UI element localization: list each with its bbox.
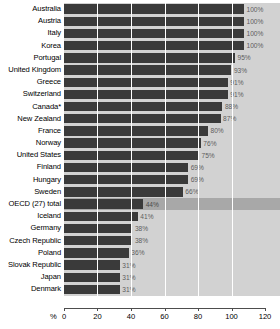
chart-row: Greece91%	[0, 76, 280, 88]
horizontal-bar-chart: Australia100%Austria100%Italy100%Korea10…	[0, 0, 280, 329]
bar	[64, 224, 132, 233]
category-label: Japan	[0, 271, 64, 283]
x-axis-tick	[97, 308, 98, 311]
bar-value-label: 100%	[244, 15, 263, 27]
bar-value-label: 69%	[188, 161, 204, 173]
bar-value-label: 69%	[188, 174, 204, 186]
bar-track: 66%	[64, 186, 280, 198]
bar-value-label: 31%	[120, 271, 136, 283]
chart-row: Sweden66%	[0, 186, 280, 198]
category-label: Canada*	[0, 101, 64, 113]
category-label: France	[0, 125, 64, 137]
bar	[64, 53, 235, 62]
bar-track: 38%	[64, 235, 280, 247]
bar-value-label: 41%	[138, 210, 154, 222]
bar	[64, 17, 244, 26]
bar-track: 100%	[64, 15, 280, 27]
bar	[64, 212, 138, 221]
chart-row: Korea100%	[0, 40, 280, 52]
bar-track: 93%	[64, 64, 280, 76]
bar	[64, 138, 201, 147]
chart-row: Denmark31%	[0, 283, 280, 295]
category-label: United Kingdom	[0, 64, 64, 76]
chart-row: United States75%	[0, 149, 280, 161]
chart-row: OECD (27) total44%	[0, 198, 280, 210]
bar-track: 31%	[64, 283, 280, 295]
chart-row: Hungary69%	[0, 174, 280, 186]
bar-value-label: 100%	[244, 27, 263, 39]
bar-value-label: 87%	[221, 113, 237, 125]
bar	[64, 260, 120, 269]
category-label: Australia	[0, 3, 64, 15]
chart-rows: Australia100%Austria100%Italy100%Korea10…	[0, 3, 280, 296]
bar-value-label: 38%	[132, 235, 148, 247]
bar-value-label: 100%	[244, 3, 263, 15]
bar	[64, 126, 208, 135]
chart-row: Australia100%	[0, 3, 280, 15]
chart-row: Germany38%	[0, 222, 280, 234]
x-axis-tick	[265, 308, 266, 311]
chart-row: Norway76%	[0, 137, 280, 149]
chart-row: Finland69%	[0, 161, 280, 173]
chart-row: France80%	[0, 125, 280, 137]
bar-track: 31%	[64, 271, 280, 283]
category-label: United States	[0, 149, 64, 161]
chart-row: Poland36%	[0, 247, 280, 259]
x-axis-tick	[232, 308, 233, 311]
bar-track: 87%	[64, 113, 280, 125]
bar-value-label: 38%	[132, 222, 148, 234]
bar-track: 69%	[64, 161, 280, 173]
category-label: Poland	[0, 247, 64, 259]
x-axis-tick-label: 100	[225, 312, 238, 321]
bar	[64, 41, 244, 50]
bar-track: 91%	[64, 88, 280, 100]
chart-row: New Zealand87%	[0, 113, 280, 125]
category-label: Denmark	[0, 283, 64, 295]
bar-value-label: 31%	[120, 283, 136, 295]
category-label: Germany	[0, 222, 64, 234]
bar-track: 100%	[64, 27, 280, 39]
x-axis-unit-label: %	[50, 312, 57, 321]
chart-row: Czech Republic38%	[0, 235, 280, 247]
category-label: Czech Republic	[0, 235, 64, 247]
bar	[64, 163, 188, 172]
x-axis-tick-label: 40	[127, 312, 135, 321]
x-axis-tick	[198, 308, 199, 311]
bar	[64, 285, 120, 294]
chart-row: Italy100%	[0, 27, 280, 39]
x-axis: 020406080100120	[64, 308, 265, 309]
bar-track: 100%	[64, 3, 280, 15]
x-axis-tick-label: 120	[259, 312, 272, 321]
category-label: Hungary	[0, 174, 64, 186]
bar-value-label: 66%	[183, 186, 199, 198]
bar	[64, 199, 143, 208]
bar	[64, 248, 129, 257]
category-label: Austria	[0, 15, 64, 27]
category-label: Portugal	[0, 52, 64, 64]
bar-track: 91%	[64, 76, 280, 88]
bar	[64, 236, 132, 245]
bar-value-label: 91%	[228, 76, 244, 88]
bar-value-label: 44%	[143, 198, 159, 210]
category-label: Greece	[0, 76, 64, 88]
bar-track: 80%	[64, 125, 280, 137]
x-axis-tick-label: 60	[160, 312, 168, 321]
bar-track: 75%	[64, 149, 280, 161]
bar-track: 31%	[64, 259, 280, 271]
x-axis-tick	[64, 308, 65, 311]
x-axis-tick	[165, 308, 166, 311]
bar-track: 36%	[64, 247, 280, 259]
category-label: Iceland	[0, 210, 64, 222]
bar	[64, 175, 188, 184]
bar-track: 41%	[64, 210, 280, 222]
bar-value-label: 88%	[222, 101, 238, 113]
category-label: New Zealand	[0, 113, 64, 125]
bar	[64, 65, 231, 74]
bar-value-label: 100%	[244, 40, 263, 52]
chart-row: Switzerland91%	[0, 88, 280, 100]
bar-track: 100%	[64, 40, 280, 52]
bar	[64, 4, 244, 13]
category-label: Switzerland	[0, 88, 64, 100]
bar-value-label: 93%	[231, 64, 247, 76]
category-label: Finland	[0, 161, 64, 173]
